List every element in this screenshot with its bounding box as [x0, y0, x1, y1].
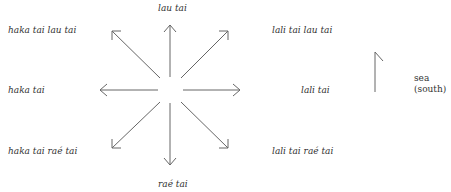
label-south: raé tai: [158, 180, 188, 189]
arrow-southeast: [181, 102, 228, 148]
reference-line-2: (south): [414, 84, 446, 95]
label-northeast: lali tai lau tai: [272, 26, 332, 35]
arrow-east: [183, 84, 240, 96]
arrow-west: [100, 84, 158, 96]
arrow-south: [164, 103, 176, 165]
label-southwest: haka tai raé tai: [8, 147, 77, 156]
arrow-southwest: [112, 102, 160, 148]
reference-line-1: sea: [414, 73, 446, 84]
label-northwest: haka tai lau tai: [8, 26, 76, 35]
arrow-northwest: [112, 31, 160, 78]
half-arrow-sea: [375, 52, 383, 92]
label-southeast: lali tai raé tai: [272, 147, 333, 156]
label-east: lali tai: [301, 86, 330, 95]
arrow-northeast: [181, 31, 228, 78]
label-west: haka tai: [8, 86, 45, 95]
arrow-north: [164, 25, 176, 77]
label-north: lau tai: [158, 4, 187, 13]
reference-label: sea (south): [414, 73, 446, 96]
